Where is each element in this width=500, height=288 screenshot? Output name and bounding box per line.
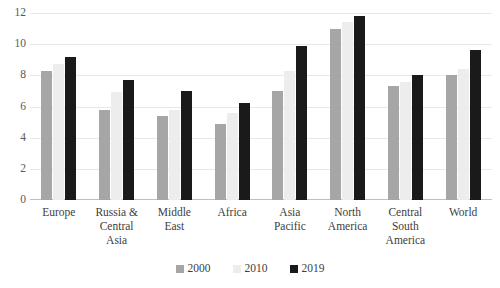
legend-item[interactable]: 2019 xyxy=(290,263,325,275)
x-axis-label-line: Central xyxy=(378,205,434,219)
bar xyxy=(342,22,353,200)
x-axis-tick-label: World xyxy=(434,205,492,247)
legend-swatch-icon xyxy=(233,265,241,273)
bar xyxy=(388,86,399,200)
bar xyxy=(412,75,423,200)
x-axis-label-line: America xyxy=(378,233,434,247)
y-axis: 121086420 xyxy=(0,0,26,201)
bar xyxy=(400,82,411,200)
bar-group xyxy=(30,13,88,200)
x-axis-tick-label: CentralSouthAmerica xyxy=(377,205,435,247)
x-axis-tick-label: Africa xyxy=(203,205,261,247)
x-axis-label-line: Central xyxy=(89,219,145,233)
legend-item[interactable]: 2000 xyxy=(176,263,211,275)
bar xyxy=(284,71,295,200)
bar xyxy=(215,124,226,200)
x-axis: EuropeRussia &CentralAsiaMiddleEastAfric… xyxy=(30,205,492,247)
bar xyxy=(65,57,76,200)
x-axis-label-line: Russia & xyxy=(89,205,145,219)
x-axis-label-line: Asia xyxy=(89,233,145,247)
bar xyxy=(227,113,238,200)
x-axis-label-line: Middle xyxy=(147,205,203,219)
y-axis-tick-label: 6 xyxy=(0,101,26,113)
x-axis-label-line: Pacific xyxy=(262,219,318,233)
x-axis-tick-label: MiddleEast xyxy=(146,205,204,247)
x-axis-label-line: North xyxy=(320,205,376,219)
bar xyxy=(53,64,64,200)
legend-swatch-icon xyxy=(290,265,298,273)
bar-group xyxy=(146,13,204,200)
y-axis-tick-label: 10 xyxy=(0,38,26,50)
legend-item[interactable]: 2010 xyxy=(233,263,268,275)
x-axis-tick-label: Russia &CentralAsia xyxy=(88,205,146,247)
bar xyxy=(470,50,481,200)
legend-label: 2019 xyxy=(302,263,325,275)
y-axis-tick-label: 2 xyxy=(0,163,26,175)
bar xyxy=(458,69,469,200)
x-axis-label-line: Africa xyxy=(204,205,260,219)
x-axis-label-line: America xyxy=(320,219,376,233)
bar xyxy=(157,116,168,200)
bar xyxy=(239,103,250,200)
bar-group xyxy=(88,13,146,200)
bar-groups xyxy=(30,13,492,200)
y-axis-tick-label: 12 xyxy=(0,7,26,19)
bar xyxy=(446,75,457,200)
bar xyxy=(111,92,122,200)
x-axis-tick-label: Europe xyxy=(30,205,88,247)
bar xyxy=(272,91,283,200)
x-axis-tick-label: AsiaPacific xyxy=(261,205,319,247)
bar xyxy=(123,80,134,200)
bar xyxy=(181,91,192,200)
bar xyxy=(354,16,365,200)
y-axis-tick-label: 4 xyxy=(0,132,26,144)
legend-swatch-icon xyxy=(176,265,184,273)
legend-label: 2000 xyxy=(188,263,211,275)
legend-label: 2010 xyxy=(245,263,268,275)
bar xyxy=(296,46,307,200)
bar-chart: 121086420 EuropeRussia &CentralAsiaMiddl… xyxy=(0,0,500,288)
chart-legend: 200020102019 xyxy=(0,263,500,275)
bar-group xyxy=(377,13,435,200)
bar-group xyxy=(261,13,319,200)
x-axis-tick-label: NorthAmerica xyxy=(319,205,377,247)
bar xyxy=(99,110,110,200)
y-axis-tick-label: 0 xyxy=(0,194,26,206)
x-axis-label-line: East xyxy=(147,219,203,233)
bar-group xyxy=(319,13,377,200)
bar xyxy=(330,29,341,200)
x-axis-label-line: Asia xyxy=(262,205,318,219)
bar-group xyxy=(203,13,261,200)
bar xyxy=(169,110,180,200)
bar xyxy=(41,71,52,200)
x-axis-label-line: Europe xyxy=(31,205,87,219)
bar-group xyxy=(434,13,492,200)
y-axis-tick-label: 8 xyxy=(0,70,26,82)
x-axis-label-line: World xyxy=(435,205,491,219)
x-axis-label-line: South xyxy=(378,219,434,233)
